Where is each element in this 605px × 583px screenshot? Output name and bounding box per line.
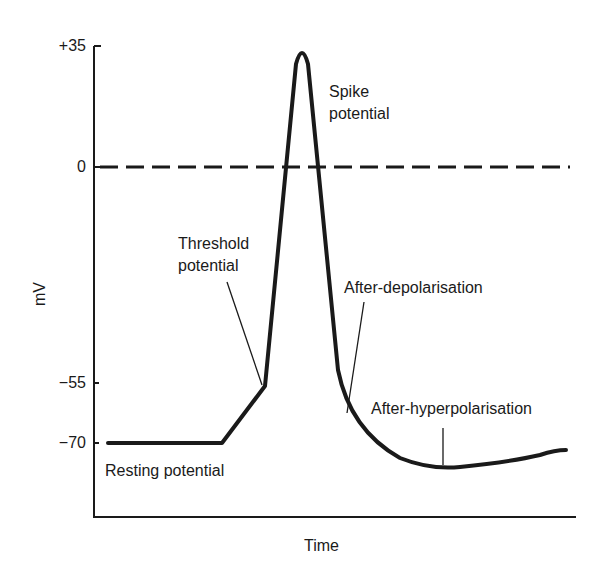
tick-label-plus35: +35 — [26, 37, 86, 55]
label-threshold-line1: Threshold — [178, 233, 249, 255]
label-after-depolarisation: After-depolarisation — [344, 277, 483, 299]
tick-label-minus55: −55 — [26, 374, 86, 392]
tick-label-minus70: −70 — [26, 434, 86, 452]
label-spike-potential: Spike potential — [329, 81, 390, 125]
y-axis-title: mV — [31, 282, 49, 306]
label-spike-line2: potential — [329, 103, 390, 125]
label-threshold-potential: Threshold potential — [178, 233, 249, 277]
label-resting-potential: Resting potential — [105, 460, 224, 482]
label-spike-line1: Spike — [329, 81, 390, 103]
after-depol-leader-line — [347, 302, 364, 413]
label-threshold-line2: potential — [178, 255, 249, 277]
tick-label-0: 0 — [26, 158, 86, 176]
action-potential-diagram — [0, 0, 605, 583]
x-axis-title: Time — [304, 537, 339, 555]
label-after-hyperpolarisation: After-hyperpolarisation — [371, 398, 532, 420]
threshold-leader-line — [227, 282, 262, 385]
